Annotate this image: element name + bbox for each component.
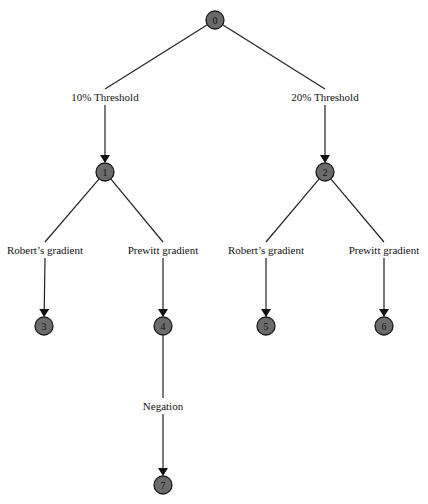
node-label: 7 (161, 480, 166, 491)
nodes-layer: 01234567 (35, 11, 393, 494)
edge-label: Prewitt gradient (349, 244, 420, 256)
edge-1-3: Robert’s gradient (7, 179, 99, 316)
node-7: 7 (154, 476, 172, 494)
node-label: 1 (103, 167, 108, 178)
node-4: 4 (154, 317, 172, 335)
edge-label: Prewitt gradient (128, 244, 199, 256)
node-label: 0 (213, 15, 218, 26)
node-label: 6 (382, 321, 387, 332)
edge-label: 20% Threshold (291, 91, 359, 103)
edge-2-5: Robert’s gradient (228, 179, 319, 316)
node-2: 2 (316, 163, 334, 181)
node-1: 1 (96, 163, 114, 181)
node-3: 3 (35, 317, 53, 335)
edge-4-7: Negation (143, 335, 184, 475)
node-6: 6 (375, 317, 393, 335)
node-label: 5 (264, 321, 269, 332)
node-0: 0 (206, 11, 224, 29)
node-label: 4 (161, 321, 166, 332)
node-label: 2 (323, 167, 328, 178)
edge-0-1: 10% Threshold (71, 25, 207, 162)
tree-diagram: 10% Threshold20% ThresholdRobert’s gradi… (0, 0, 428, 504)
edge-label: Robert’s gradient (228, 244, 304, 256)
edge-label: Robert’s gradient (7, 244, 83, 256)
node-5: 5 (257, 317, 275, 335)
edge-0-2: 20% Threshold (223, 25, 360, 162)
edge-2-6: Prewitt gradient (331, 179, 419, 316)
edges-layer: 10% Threshold20% ThresholdRobert’s gradi… (7, 25, 419, 475)
edge-1-4: Prewitt gradient (111, 179, 199, 316)
edge-label: Negation (143, 400, 184, 412)
node-label: 3 (42, 321, 47, 332)
edge-label: 10% Threshold (71, 91, 139, 103)
